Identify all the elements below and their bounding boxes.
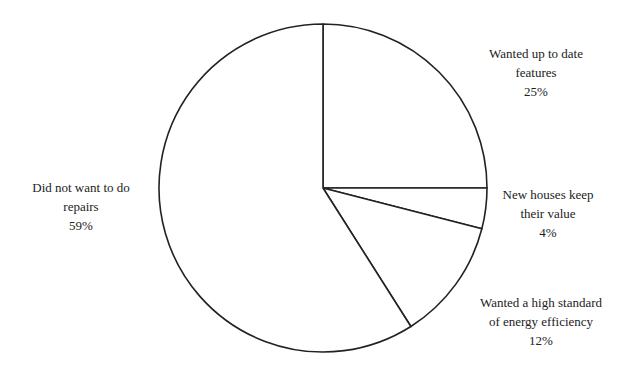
label-percent: 4%: [488, 223, 608, 242]
label-energy-efficiency: Wanted a high standard of energy efficie…: [466, 293, 616, 350]
pie-slice-0: [323, 24, 487, 188]
label-keep-value: New houses keep their value 4%: [488, 185, 608, 242]
label-text: Wanted up to date: [470, 44, 602, 63]
label-percent: 59%: [20, 216, 142, 235]
label-text: features: [470, 63, 602, 82]
label-up-to-date-features: Wanted up to date features 25%: [470, 44, 602, 101]
label-text: New houses keep: [488, 185, 608, 204]
pie-slices: [159, 24, 487, 352]
label-text: Did not want to do: [20, 178, 142, 197]
label-percent: 12%: [466, 331, 616, 350]
label-text: repairs: [20, 197, 142, 216]
label-repairs: Did not want to do repairs 59%: [20, 178, 142, 235]
label-text: their value: [488, 204, 608, 223]
label-text: Wanted a high standard: [466, 293, 616, 312]
label-text: of energy efficiency: [466, 312, 616, 331]
label-percent: 25%: [470, 82, 602, 101]
